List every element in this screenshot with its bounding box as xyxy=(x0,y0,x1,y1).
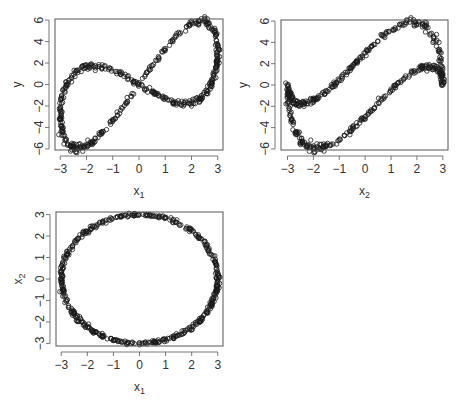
x-tick-label: 3 xyxy=(214,358,221,372)
x-tick-label: −2 xyxy=(80,162,94,176)
x-tick-label: 2 xyxy=(188,162,195,176)
y-tick-label: 4 xyxy=(32,38,46,45)
x-tick-label: 3 xyxy=(439,162,446,176)
y-tick-label: −2 xyxy=(32,99,46,113)
y-axis: −6−4−20246y xyxy=(236,17,275,155)
y-tick-label: −6 xyxy=(258,142,272,156)
x-axis-label: x1 xyxy=(134,380,145,396)
x-tick-label: −1 xyxy=(106,162,120,176)
x-tick-label: 2 xyxy=(414,162,421,176)
x-tick-label: −3 xyxy=(53,162,67,176)
y-tick-label: −2 xyxy=(33,315,47,329)
data-point xyxy=(423,30,427,34)
x-tick-label: −2 xyxy=(307,162,321,176)
panel-y-vs-x1: −3−2−10123x1−6−4−20246y xyxy=(10,15,223,201)
panel-y-vs-x2: −3−2−10123x2−6−4−20246y xyxy=(236,16,448,201)
y-tick-label: −2 xyxy=(258,99,272,113)
data-points xyxy=(58,211,223,347)
x-axis-label: x1 xyxy=(133,184,144,200)
x-tick-label: 0 xyxy=(362,162,369,176)
x-tick-label: 0 xyxy=(136,162,143,176)
data-point xyxy=(183,29,187,33)
x-tick-label: 3 xyxy=(214,162,221,176)
y-tick-label: 0 xyxy=(32,81,46,88)
y-tick-label: −6 xyxy=(32,142,46,156)
data-point xyxy=(167,43,171,47)
y-tick-label: 1 xyxy=(33,254,47,261)
x-tick-label: 1 xyxy=(388,162,395,176)
y-tick-label: 2 xyxy=(32,59,46,66)
y-tick-label: 4 xyxy=(258,39,272,46)
y-axis-label: x2 xyxy=(11,273,27,284)
x-tick-label: −3 xyxy=(281,162,295,176)
y-tick-label: 2 xyxy=(258,60,272,67)
data-points xyxy=(57,15,223,155)
y-tick-label: −3 xyxy=(33,336,47,350)
x-axis: −3−2−10123x2 xyxy=(281,156,447,200)
scatterplot-matrix-figure: −3−2−10123x1−6−4−20246y −3−2−10123x2−6−4… xyxy=(0,0,468,408)
x-tick-label: 2 xyxy=(188,358,195,372)
data-points xyxy=(284,16,447,155)
x-tick-label: 1 xyxy=(162,358,169,372)
plot-frame xyxy=(281,20,448,150)
y-tick-label: −4 xyxy=(32,120,46,134)
y-tick-label: −4 xyxy=(258,120,272,134)
y-axis: −6−4−20246y xyxy=(10,16,49,155)
y-tick-label: 0 xyxy=(33,275,47,282)
x-tick-label: −2 xyxy=(80,358,94,372)
y-tick-label: 2 xyxy=(33,232,47,239)
y-tick-label: 0 xyxy=(258,81,272,88)
x-axis: −3−2−10123x1 xyxy=(53,156,221,200)
data-point xyxy=(408,20,412,24)
y-tick-label: 3 xyxy=(33,211,47,218)
y-axis: −3−2−10123x2 xyxy=(11,211,50,350)
x-tick-label: 1 xyxy=(162,162,169,176)
x-tick-label: −3 xyxy=(54,358,68,372)
panel-x2-vs-x1: −3−2−10123x1−3−2−10123x2 xyxy=(11,211,223,396)
y-axis-label: y xyxy=(236,82,250,88)
y-tick-label: −1 xyxy=(33,293,47,307)
x-axis: −3−2−10123x1 xyxy=(54,352,221,396)
y-tick-label: 6 xyxy=(32,16,46,23)
y-tick-label: 6 xyxy=(258,17,272,24)
x-tick-label: −1 xyxy=(332,162,346,176)
x-tick-label: 0 xyxy=(136,358,143,372)
x-tick-label: −1 xyxy=(107,358,121,372)
data-point xyxy=(309,138,313,142)
x-axis-label: x2 xyxy=(359,184,370,200)
y-axis-label: y xyxy=(10,82,24,88)
